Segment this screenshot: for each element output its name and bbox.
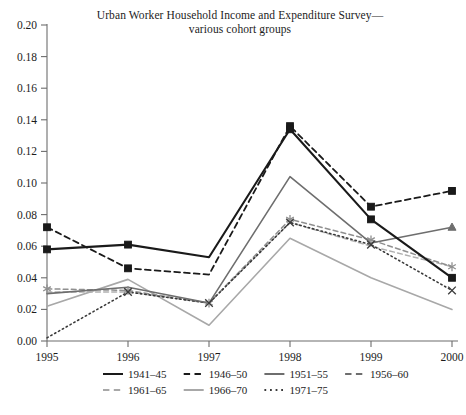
legend-label[interactable]: 1946–50 bbox=[209, 368, 248, 380]
data-point-marker-square bbox=[125, 241, 132, 248]
legend-label[interactable]: 1941–45 bbox=[128, 368, 167, 380]
legend-label[interactable]: 1971–75 bbox=[289, 384, 328, 396]
x-axis-tick-label: 1996 bbox=[117, 351, 140, 363]
data-point-marker-square bbox=[44, 246, 51, 253]
data-point-marker-square bbox=[44, 224, 51, 231]
y-axis-tick-label: 0.04 bbox=[17, 272, 37, 284]
y-axis-tick-label: 0.08 bbox=[17, 209, 37, 221]
legend-label[interactable]: 1961–65 bbox=[128, 384, 167, 396]
legend-label[interactable]: 1956–60 bbox=[370, 368, 409, 380]
y-axis-tick-label: 0.10 bbox=[17, 177, 37, 189]
x-axis-tick-label: 1995 bbox=[36, 351, 59, 363]
y-axis-tick-label: 0.14 bbox=[17, 114, 37, 126]
y-axis-tick-label: 0.16 bbox=[17, 82, 37, 94]
data-point-marker-square bbox=[368, 216, 375, 223]
x-axis-tick-label: 1998 bbox=[279, 351, 302, 363]
data-point-marker-square bbox=[449, 274, 456, 281]
x-axis-tick-label: 1997 bbox=[198, 351, 221, 363]
data-point-marker-square bbox=[449, 188, 456, 195]
x-axis-tick-label: 1999 bbox=[360, 351, 383, 363]
legend-label[interactable]: 1966–70 bbox=[209, 384, 248, 396]
legend-label[interactable]: 1951–55 bbox=[289, 368, 328, 380]
y-axis-tick-label: 0.06 bbox=[17, 240, 37, 252]
data-point-marker-triangle bbox=[448, 223, 456, 230]
data-point-marker-square bbox=[287, 126, 294, 133]
series-line bbox=[47, 219, 452, 303]
y-axis-tick-label: 0.18 bbox=[17, 51, 37, 63]
x-axis-tick-label: 2000 bbox=[441, 351, 464, 363]
series-line bbox=[47, 177, 452, 303]
series-line bbox=[47, 126, 452, 275]
y-axis-tick-label: 0.02 bbox=[17, 303, 37, 315]
line-chart-svg: 0.000.020.040.060.080.100.120.140.160.18… bbox=[0, 0, 466, 415]
data-point-marker-square bbox=[125, 265, 132, 272]
y-axis-tick-label: 0.12 bbox=[17, 145, 37, 157]
chart-container: Urban Worker Household Income and Expend… bbox=[0, 0, 466, 415]
y-axis-tick-label: 0.00 bbox=[17, 335, 37, 347]
y-axis-tick-label: 0.20 bbox=[17, 19, 37, 31]
data-point-marker-square bbox=[368, 203, 375, 210]
